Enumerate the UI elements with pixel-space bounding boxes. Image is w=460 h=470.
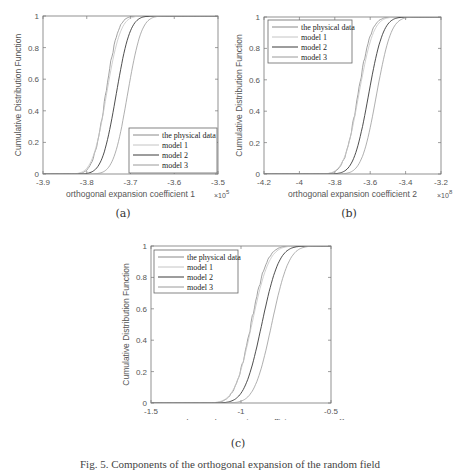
y-tick-label: 0.4	[28, 107, 40, 116]
y-tick-label: 0	[256, 170, 261, 179]
legend-entry: the physical data	[162, 131, 216, 140]
x-axis-label: orthogonal expansion coefficient 1	[66, 189, 195, 199]
y-tick-label: 0.2	[136, 368, 148, 377]
x-axis-label: orthogonal expansion coefficient 2	[288, 189, 417, 199]
legend-entry: the physical data	[301, 23, 355, 32]
x-axis-label: orthogonal expansion coefficient 3	[177, 418, 306, 420]
y-tick-label: 1	[143, 242, 148, 251]
y-tick-label: 0.4	[249, 107, 261, 116]
subfigure-label-c: (c)	[208, 437, 268, 450]
chart-a-svg: -3.9-3.8-3.7-3.6-3.500.20.40.60.81orthog…	[0, 0, 230, 200]
x-tick-label: -1.5	[144, 407, 158, 416]
y-tick-label: 0.4	[136, 336, 148, 345]
y-axis-label: Cumulative Distribution Function	[121, 263, 131, 386]
legend-entry: the physical data	[187, 253, 241, 262]
y-tick-label: 0.8	[249, 44, 261, 53]
subfigure-label-b: (b)	[319, 207, 379, 220]
x-tick-label: -3.9	[36, 178, 50, 187]
y-tick-label: 1	[256, 13, 261, 22]
x-axis-exponent: ×1011	[327, 418, 346, 420]
legend-entry: model 3	[162, 161, 188, 170]
x-tick-label: -3.6	[167, 178, 181, 187]
x-tick-label: -3.7	[124, 178, 138, 187]
x-tick-label: -1	[237, 407, 245, 416]
y-tick-label: 0.2	[28, 138, 40, 147]
chart-panel-a: -3.9-3.8-3.7-3.6-3.500.20.40.60.81orthog…	[0, 0, 230, 200]
legend-entry: model 2	[162, 151, 188, 160]
chart-panel-b: -4.2-4-3.8-3.6-3.4-3.200.20.40.60.81orth…	[230, 0, 460, 200]
y-tick-label: 1	[35, 12, 40, 21]
x-tick-label: -3.5	[211, 178, 225, 187]
x-tick-label: -4.2	[257, 178, 271, 187]
x-tick-label: -3.4	[399, 178, 413, 187]
legend: the physical datamodel 1model 2model 3	[154, 250, 241, 293]
figure-caption: Fig. 5. Components of the orthogonal exp…	[0, 458, 460, 470]
chart-c-svg: -1.5-1-0.500.20.40.60.81orthogonal expan…	[100, 230, 360, 420]
y-tick-label: 0.6	[249, 76, 261, 85]
chart-panel-c: -1.5-1-0.500.20.40.60.81orthogonal expan…	[100, 230, 360, 420]
y-tick-label: 0.2	[249, 139, 261, 148]
y-tick-label: 0.8	[136, 273, 148, 282]
y-tick-label: 0.6	[28, 75, 40, 84]
x-tick-label: -3.8	[328, 178, 342, 187]
chart-b-svg: -4.2-4-3.8-3.6-3.4-3.200.20.40.60.81orth…	[230, 0, 460, 200]
x-tick-label: -3.8	[80, 178, 94, 187]
legend-entry: model 2	[301, 43, 327, 52]
x-tick-label: -3.6	[363, 178, 377, 187]
legend: the physical datamodel 1model 2model 3	[268, 20, 355, 63]
x-tick-label: -0.5	[324, 407, 338, 416]
y-axis-label: Cumulative Distribution Function	[13, 34, 23, 157]
legend-entry: model 3	[187, 283, 213, 292]
subfigure-label-a: (a)	[93, 207, 153, 220]
y-tick-label: 0	[143, 399, 148, 408]
x-axis-exponent: ×108	[437, 189, 453, 199]
legend-entry: model 1	[301, 33, 327, 42]
legend: the physical datamodel 1model 2model 3	[129, 128, 217, 173]
legend-entry: model 2	[187, 273, 213, 282]
y-tick-label: 0.8	[28, 44, 40, 53]
x-axis-exponent: ×105	[214, 189, 230, 199]
legend-entry: model 1	[162, 141, 188, 150]
legend-entry: model 1	[187, 263, 213, 272]
legend-entry: model 3	[301, 53, 327, 62]
y-axis-label: Cumulative Distribution Function	[234, 34, 244, 157]
y-tick-label: 0	[35, 170, 40, 179]
x-tick-label: -3.2	[434, 178, 448, 187]
y-tick-label: 0.6	[136, 305, 148, 314]
x-tick-label: -4	[296, 178, 304, 187]
